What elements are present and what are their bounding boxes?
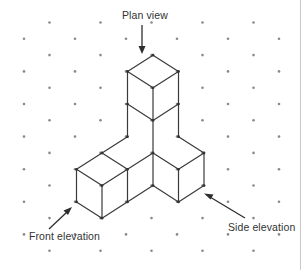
grid-dot [278,103,281,106]
grid-dot [252,21,255,24]
cube-vertex [177,103,180,106]
grid-dot [252,119,255,122]
cube-vertex [126,168,129,171]
grid-dot [48,184,51,187]
cube-edge [179,153,205,169]
grid-dot [252,217,255,220]
cube-vertex [152,152,155,155]
grid-dot [99,86,102,89]
grid-dot [201,119,204,122]
cube-edge [77,169,103,185]
cube-vertex [75,168,78,171]
cube-vertex [126,70,129,73]
grid-dot [278,38,281,41]
grid-dot [227,233,230,236]
cube-vertex [152,86,155,89]
grid-dot [74,135,77,138]
grid-dot [48,54,51,57]
grid-dot [74,70,77,73]
grid-dot [48,119,51,122]
grid-dot [176,233,179,236]
grid-dot [278,233,281,236]
grid-dot [23,168,26,171]
grid-dot [227,70,230,73]
grid-dot [201,54,204,57]
grid-dot [150,21,153,24]
grid-dot [23,103,26,106]
front-elevation-callout: Front elevation [29,207,100,242]
side-elevation-callout: Side elevation [204,194,295,234]
cube-edge [179,186,205,202]
cube-vertex [177,70,180,73]
grid-dot [23,233,26,236]
cube-vertex [75,201,78,204]
grid-dot [252,152,255,155]
grid-dot [23,70,26,73]
grid-dot [176,38,179,41]
grid-dot [99,54,102,57]
front-elevation-label: Front elevation [29,230,100,242]
cube-vertex [101,217,104,220]
grid-dot [48,86,51,89]
grid-dot [74,103,77,106]
cube-vertex [177,135,180,138]
cube-vertex [126,135,129,138]
grid-dot [278,168,281,171]
grid-dot [278,201,281,204]
cube-vertex [177,201,180,204]
grid-dot [278,70,281,73]
plan-view-callout: Plan view [122,9,168,54]
cube-edge [102,153,128,169]
grid-dot [201,21,204,24]
cube-vertex [203,184,206,187]
grid-dot [48,152,51,155]
grid-dot [227,135,230,138]
grid-dot [125,233,128,236]
grid-dot [201,249,204,252]
grid-dot [227,38,230,41]
cube-vertex [152,54,155,57]
grid-dot [150,249,153,252]
cube-vertex [126,103,129,106]
solid-edges [77,55,205,218]
grid-dot [23,135,26,138]
cube-edge [153,186,179,202]
grid-dot [227,201,230,204]
side-elevation-label: Side elevation [228,221,295,233]
grid-dot [201,217,204,220]
cube-edge [153,55,179,71]
grid-dot [48,249,51,252]
grid-dot [23,38,26,41]
cube-edge [179,137,205,153]
cube-edge [153,153,179,169]
grid-dot [278,135,281,138]
cube-edge [77,202,103,218]
grid-dot [48,217,51,220]
cube-vertex [152,184,155,187]
grid-dot [252,86,255,89]
grid-dot [48,21,51,24]
side-elevation-arrow-shaft [210,197,245,218]
grid-dot [252,54,255,57]
cube-vertex [177,168,180,171]
grid-dot [99,21,102,24]
grid-dot [227,168,230,171]
cube-vertex [126,201,129,204]
plan-view-label: Plan view [122,9,168,21]
grid-dot [252,249,255,252]
isometric-diagram: Plan view Front elevation Side elevation [0,0,302,270]
cube-vertex [203,152,206,155]
cube-edge [153,104,179,120]
grid-dot [74,38,77,41]
grid-dot [201,86,204,89]
cube-edge [153,72,179,88]
cube-vertex [152,119,155,122]
solid-vertices [75,54,205,220]
grid-dot [252,184,255,187]
cube-vertex [101,184,104,187]
grid-dot [227,103,230,106]
grid-dot [23,201,26,204]
grid-dot [99,119,102,122]
grid-dot [125,38,128,41]
cube-vertex [101,152,104,155]
